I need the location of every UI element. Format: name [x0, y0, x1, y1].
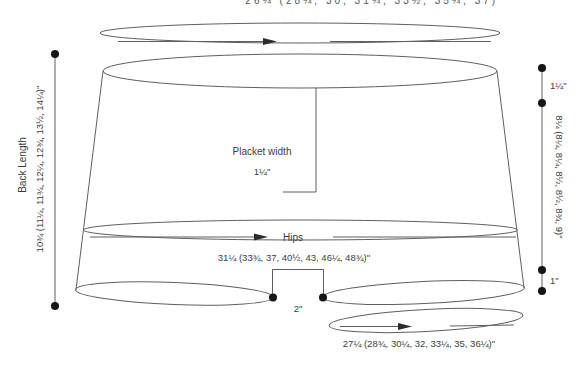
right-top-segment-value: 1¼" — [550, 80, 567, 91]
right-dot-3 — [538, 266, 546, 274]
placket-width-label: Placket width — [233, 146, 292, 157]
hips-indicator: Hips 31¼ (33¾, 37, 40½, 43, 46¼, 48¾)" — [90, 232, 516, 264]
right-dot-2 — [538, 99, 546, 107]
hem-right-ellipse — [322, 277, 525, 308]
hem-circumference-indicator: 27¼ (28¾, 30¼, 32, 33¼, 35, 36¼)" — [329, 304, 524, 349]
right-dot-4 — [538, 287, 546, 295]
vent-width-value: 2" — [294, 303, 303, 314]
waist-arrowhead-icon — [263, 38, 277, 45]
placket-indicator: Placket width 1¼" — [233, 88, 316, 192]
vent-indicator: 2" — [269, 270, 327, 315]
skirt-right-side-line — [497, 71, 524, 288]
back-length-values: 10¾ (11¼, 11¾, 12¼, 12¾, 13½, 14¼)" — [34, 86, 45, 253]
hips-label: Hips — [283, 232, 303, 243]
right-dot-1 — [538, 64, 546, 72]
back-length-indicator: Back Length 10¾ (11¼, 11¾, 12¼, 12¾, 13½… — [17, 50, 59, 310]
waist-circumference-ellipse — [100, 23, 500, 43]
vent-left-dot — [269, 294, 277, 302]
skirt-schematic-svg: 26¼ (28¼, 30, 31¾, 33½, 35¼, 37)" Placke… — [0, 0, 586, 367]
back-length-bottom-dot — [51, 302, 59, 310]
back-length-top-dot — [51, 50, 59, 58]
hem-left-ellipse — [75, 279, 274, 309]
back-length-title: Back Length — [17, 137, 28, 193]
hem-arrow-line-right — [450, 325, 514, 326]
vent-rectangle — [273, 270, 324, 298]
placket-width-value: 1¼" — [254, 166, 271, 177]
right-side-indicator: 1¼" 8¼ (8¼, 8¼, 8½, 8½, 8¾, 9)" 1" — [538, 64, 567, 295]
skirt-top-opening-ellipse — [103, 54, 497, 88]
vent-right-dot — [319, 294, 327, 302]
skirt-left-side-line — [76, 71, 103, 290]
waist-circumference-indicator — [100, 23, 500, 45]
measurement-diagram: 26¼ (28¼, 30, 31¾, 33½, 35¼, 37)" Placke… — [0, 0, 586, 367]
hem-arrowhead-icon — [398, 323, 412, 330]
hips-values: 31¼ (33¾, 37, 40½, 43, 46¼, 48¾)" — [218, 252, 370, 263]
skirt-body-outline — [75, 54, 525, 308]
hem-circumference-ellipse — [329, 304, 524, 336]
right-middle-segment-values: 8¼ (8¼, 8¼, 8½, 8½, 8¾, 9)" — [554, 115, 565, 238]
right-bottom-segment-value: 1" — [550, 275, 559, 286]
hem-values: 27¼ (28¾, 30¼, 32, 33¼, 35, 36¼)" — [343, 338, 495, 349]
clipped-top-label: 26¼ (28¼, 30, 31¾, 33½, 35¼, 37)" — [245, 0, 504, 6]
